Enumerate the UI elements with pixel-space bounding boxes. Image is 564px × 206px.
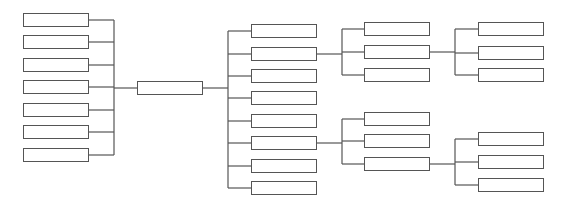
node-m2 — [251, 47, 317, 61]
node-m6 — [251, 136, 317, 150]
node-d1 — [478, 132, 544, 146]
node-b2 — [478, 46, 544, 60]
node-l6 — [23, 125, 89, 139]
node-l2 — [23, 35, 89, 49]
node-c2 — [364, 134, 430, 148]
node-root — [137, 81, 203, 95]
node-a1 — [364, 22, 430, 36]
node-m1 — [251, 24, 317, 38]
node-m8 — [251, 181, 317, 195]
node-l3 — [23, 58, 89, 72]
node-a3 — [364, 68, 430, 82]
node-b3 — [478, 68, 544, 82]
node-c1 — [364, 112, 430, 126]
tree-diagram — [0, 0, 564, 206]
node-l1 — [23, 13, 89, 27]
node-d2 — [478, 155, 544, 169]
node-a2 — [364, 45, 430, 59]
node-l5 — [23, 103, 89, 117]
node-l4 — [23, 80, 89, 94]
node-m3 — [251, 69, 317, 83]
node-d3 — [478, 178, 544, 192]
node-l7 — [23, 148, 89, 162]
node-m7 — [251, 159, 317, 173]
node-m5 — [251, 114, 317, 128]
node-c3 — [364, 157, 430, 171]
node-b1 — [478, 22, 544, 36]
node-m4 — [251, 91, 317, 105]
